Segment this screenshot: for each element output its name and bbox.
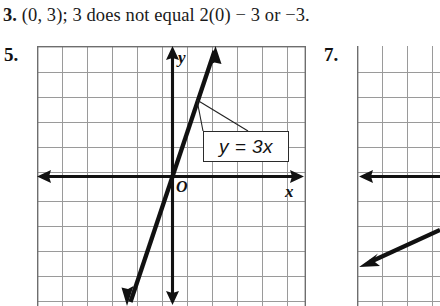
problem-number-7: 7. xyxy=(324,45,338,64)
x-axis-7-left-arrowhead xyxy=(359,170,373,183)
plot-line-7 xyxy=(359,230,440,267)
plot-line-top-arrowhead xyxy=(209,46,222,66)
grid-horizontal-lines-7 xyxy=(357,73,440,302)
answer-body-3: (0, 3); 3 does not equal 2(0) − 3 or −3. xyxy=(22,5,310,25)
graph-problem-5 xyxy=(37,46,306,306)
x-axis-7 xyxy=(359,170,440,183)
graph-svg-problem-5 xyxy=(37,46,306,306)
answer-text-problem-3: 3. (0, 3); 3 does not equal 2(0) − 3 or … xyxy=(3,2,437,28)
graph-svg-problem-7 xyxy=(357,46,440,306)
graph-problem-7 xyxy=(357,46,440,306)
equation-callout-box: y = 3x xyxy=(203,131,289,162)
problem-number-5: 5. xyxy=(4,45,18,64)
answer-number-3: 3. xyxy=(3,5,17,25)
y-axis-bottom-arrowhead xyxy=(166,291,179,305)
y-axis-label: y xyxy=(178,49,186,66)
origin-label: O xyxy=(176,179,188,195)
x-axis-label: x xyxy=(285,183,294,200)
x-axis-left-arrowhead xyxy=(37,170,51,183)
equation-callout-text: y = 3x xyxy=(219,137,273,156)
